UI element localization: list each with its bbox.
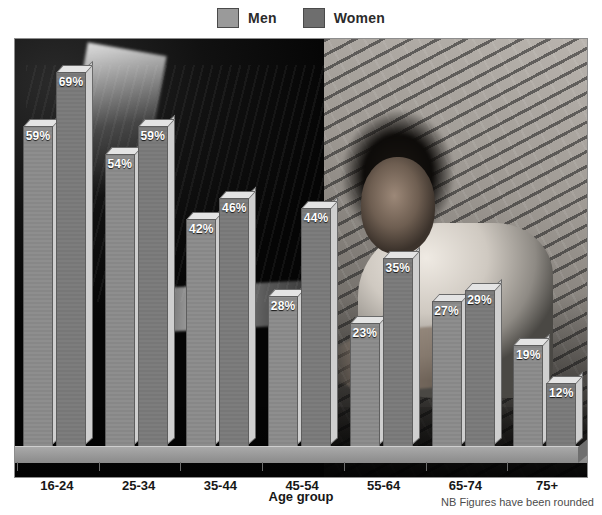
legend-item-women: Women xyxy=(303,8,385,28)
chart-page: Men Women 59%69%54%59%42%46%28%44%23%35%… xyxy=(0,0,602,515)
legend-label-men: Men xyxy=(248,10,277,26)
bar-value-label: 29% xyxy=(465,293,495,307)
bar-value-label: 46% xyxy=(219,201,249,215)
bar-women-55-64: 35% xyxy=(383,258,413,449)
bar-men-75+: 19% xyxy=(513,345,543,449)
bar-side-face xyxy=(330,197,338,445)
bar-side-face xyxy=(412,246,420,445)
bar-front-face xyxy=(219,198,249,449)
bar-women-65-74: 29% xyxy=(465,290,495,449)
bar-front-face xyxy=(105,154,135,449)
legend-swatch-women-icon xyxy=(303,8,325,28)
bar-front-face xyxy=(138,126,168,449)
bar-front-face xyxy=(186,219,216,449)
chart-footnote: NB Figures have been rounded xyxy=(441,496,594,508)
legend-label-women: Women xyxy=(334,10,385,26)
bar-women-45-54: 44% xyxy=(301,208,331,449)
bar-group: 59%69%54%59%42%46%28%44%23%35%27%29%19%1… xyxy=(15,39,587,477)
bar-front-face xyxy=(465,290,495,449)
bar-women-16-24: 69% xyxy=(56,72,86,449)
x-axis-baseline xyxy=(15,446,587,463)
bar-men-55-64: 23% xyxy=(350,323,380,449)
bar-value-label: 28% xyxy=(268,299,298,313)
bar-value-label: 23% xyxy=(350,326,380,340)
bar-side-face xyxy=(85,61,93,445)
bar-front-face xyxy=(432,301,462,449)
bar-side-face xyxy=(248,186,256,445)
bar-men-35-44: 42% xyxy=(186,219,216,449)
bar-value-label: 59% xyxy=(23,129,53,143)
bar-front-face xyxy=(268,296,298,449)
bar-side-face xyxy=(494,279,502,445)
bar-men-65-74: 27% xyxy=(432,301,462,449)
legend-swatch-men-icon xyxy=(217,8,239,28)
bar-men-45-54: 28% xyxy=(268,296,298,449)
bar-value-label: 35% xyxy=(383,261,413,275)
x-tick xyxy=(180,462,181,471)
x-tick xyxy=(99,462,100,471)
bar-value-label: 27% xyxy=(432,304,462,318)
bar-front-face xyxy=(56,72,86,449)
bar-value-label: 44% xyxy=(301,211,331,225)
x-tick xyxy=(426,462,427,471)
bar-front-face xyxy=(23,126,53,449)
bar-men-16-24: 59% xyxy=(23,126,53,449)
bar-value-label: 12% xyxy=(546,386,576,400)
bar-front-face xyxy=(383,258,413,449)
bar-value-label: 69% xyxy=(56,75,86,89)
x-tick xyxy=(507,462,508,471)
x-tick xyxy=(262,462,263,471)
x-tick xyxy=(344,462,345,471)
bar-value-label: 19% xyxy=(513,348,543,362)
bar-front-face xyxy=(301,208,331,449)
legend-item-men: Men xyxy=(217,8,277,28)
bar-women-35-44: 46% xyxy=(219,198,249,449)
bar-women-75+: 12% xyxy=(546,383,576,449)
x-tick xyxy=(17,462,18,471)
bar-value-label: 42% xyxy=(186,222,216,236)
bar-side-face xyxy=(167,115,175,445)
bar-value-label: 59% xyxy=(138,129,168,143)
bar-front-face xyxy=(350,323,380,449)
plot-area: 59%69%54%59%42%46%28%44%23%35%27%29%19%1… xyxy=(14,38,588,478)
bar-value-label: 54% xyxy=(105,157,135,171)
bar-men-25-34: 54% xyxy=(105,154,135,449)
bar-women-25-34: 59% xyxy=(138,126,168,449)
chart-legend: Men Women xyxy=(0,0,602,36)
